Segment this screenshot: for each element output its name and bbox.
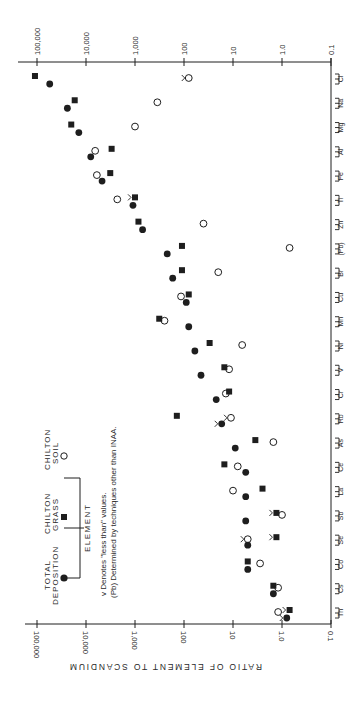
chilton-grass-point — [179, 243, 185, 249]
chilton-soil-point — [154, 99, 161, 106]
total-deposition-point — [218, 420, 225, 427]
top-tick-label: 0.1 — [327, 45, 336, 55]
legend-chilton-grass-marker — [61, 514, 67, 520]
chilton-soil-point — [114, 196, 121, 203]
less-than-marker-icon — [215, 421, 218, 427]
legend-total-l2: DEPOSITION — [51, 546, 60, 605]
chilton-grass-point — [179, 267, 185, 273]
category-label: Cr — [337, 390, 344, 398]
legend-element-label: ELEMENT — [83, 504, 92, 552]
total-deposition-point — [169, 275, 176, 282]
chilton-grass-point — [287, 607, 293, 613]
chilton-soil-point — [275, 609, 282, 616]
category-label: Zn — [337, 220, 344, 228]
chilton-grass-point — [132, 194, 138, 200]
bottom-tick-label: 10,000 — [81, 631, 90, 654]
chilton-grass-point — [260, 486, 266, 492]
category-label: Na — [337, 99, 344, 108]
category-label: As — [337, 439, 344, 448]
chilton-soil-point — [215, 269, 222, 276]
category-label: Th — [337, 609, 344, 617]
bottom-tick-label: 100 — [179, 631, 188, 644]
chilton-soil-point — [230, 487, 237, 494]
chilton-grass-point — [186, 291, 192, 297]
top-tick-label: 1,000 — [131, 36, 140, 55]
category-label: Rb — [337, 414, 344, 423]
chilton-soil-point — [200, 220, 207, 227]
total-deposition-point — [191, 348, 198, 355]
chilton-grass-point — [32, 73, 38, 79]
category-label: Cs — [337, 584, 344, 593]
note-pb-technique: (Pb) Determined by techniques other than… — [109, 426, 118, 598]
less-than-marker-icon — [224, 415, 227, 421]
chilton-grass-point — [252, 437, 258, 443]
legend-chilton-soil-marker — [61, 453, 67, 459]
total-deposition-point — [75, 129, 82, 136]
total-deposition-point — [139, 226, 146, 233]
top-tick-label: 1.0 — [278, 45, 287, 55]
chilton-grass-point — [221, 461, 227, 467]
total-deposition-point — [64, 105, 71, 112]
category-label: La — [337, 488, 344, 496]
note-less-than: v Denotes "less than" values. — [99, 492, 108, 596]
total-deposition-point — [270, 590, 277, 597]
category-label: Ce — [337, 463, 344, 472]
total-deposition-point — [99, 178, 106, 185]
chilton-soil-point — [185, 75, 192, 82]
category-label: Sb — [337, 512, 344, 521]
category-label: Mn — [337, 317, 344, 327]
less-than-marker-icon — [283, 607, 286, 613]
legend-grass-l2: GRASS — [51, 498, 60, 531]
top-tick-label: 10 — [229, 47, 238, 55]
total-deposition-point — [242, 469, 249, 476]
category-label: Br — [337, 269, 344, 277]
category-label: Mg — [337, 123, 345, 133]
data-points — [32, 73, 293, 621]
category-label: Co — [337, 560, 344, 569]
chilton-soil-point — [244, 536, 251, 543]
chilton-soil-point — [270, 439, 277, 446]
category-label: Ti — [337, 197, 344, 203]
total-deposition-point — [242, 518, 249, 525]
total-deposition-point — [283, 615, 290, 622]
category-label: V — [337, 368, 344, 373]
legend: TOTAL DEPOSITION CHILTON GRASS CHILTON S… — [43, 426, 118, 605]
legend-soil-l2: SOIL — [51, 442, 60, 464]
total-deposition-point — [244, 566, 251, 573]
chilton-grass-point — [68, 122, 74, 128]
element-ratio-chart: 100,000100,00010,00010,0001,0001,0001001… — [0, 0, 359, 706]
chilton-grass-point — [245, 558, 251, 564]
bottom-tick-label: 1.0 — [277, 631, 286, 641]
chilton-grass-point — [72, 97, 78, 103]
bottom-tick-label: 0.1 — [326, 631, 335, 641]
category-label: Fe — [337, 172, 344, 180]
chilton-soil-point — [228, 414, 235, 421]
element-category-axis: ClNaMgAlFeTiZn(Pb)BrCuMnNiVCrRbAsCeLaSbS… — [335, 74, 345, 618]
chilton-grass-point — [207, 340, 213, 346]
less-than-marker-icon — [241, 536, 244, 542]
total-deposition-point — [183, 299, 190, 306]
chilton-soil-point — [92, 147, 99, 154]
total-deposition-point — [213, 396, 220, 403]
category-label: Cu — [337, 293, 344, 302]
legend-total-deposition-marker — [60, 574, 67, 581]
total-deposition-point — [87, 153, 94, 160]
bottom-tick-label: 100,000 — [32, 631, 41, 658]
chilton-soil-point — [132, 123, 139, 130]
chilton-grass-point — [174, 413, 180, 419]
total-deposition-point — [130, 202, 137, 209]
chilton-soil-point — [279, 512, 286, 519]
top-tick-label: 100 — [180, 42, 189, 55]
total-deposition-point — [242, 493, 249, 500]
total-deposition-point — [198, 372, 205, 379]
chilton-grass-point — [273, 534, 279, 540]
chilton-soil-point — [286, 245, 293, 252]
less-than-marker-icon — [182, 75, 185, 81]
category-label: Al — [337, 148, 344, 155]
top-tick-label: 100,000 — [33, 28, 42, 55]
category-label: Se — [337, 536, 344, 545]
value-axes: 100,000100,00010,00010,0001,0001,0001001… — [18, 28, 336, 658]
less-than-marker-icon — [269, 534, 272, 540]
total-deposition-point — [46, 81, 53, 88]
less-than-marker-icon — [269, 510, 272, 516]
